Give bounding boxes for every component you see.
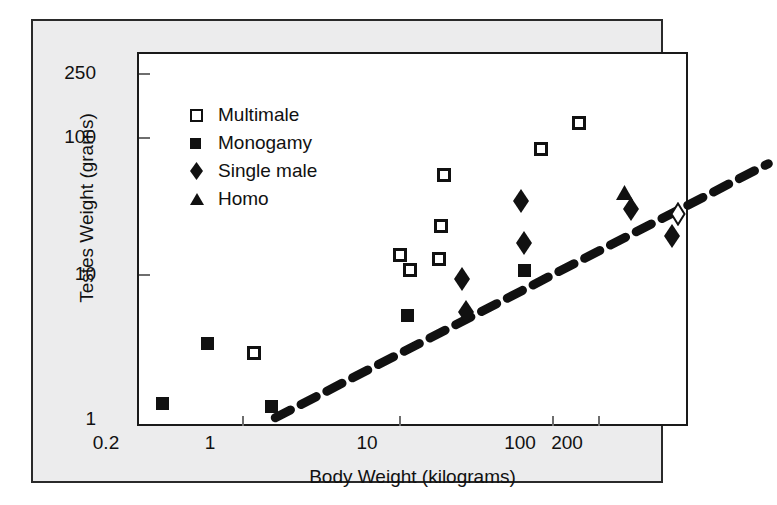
x-tick-label-10: 10 [327,433,407,452]
data-point-filled-square [156,397,169,410]
y-tick-label-10: 10 [26,264,96,283]
data-point-open-square [437,168,451,182]
open-square-icon [190,109,216,122]
y-axis-label: Testes Weight (grams) [70,58,104,358]
data-point-open-square [572,116,586,130]
data-point-filled-diamond [458,300,474,328]
x-tick-mark-100 [552,416,554,426]
x-tick-mark-1 [242,416,244,426]
data-point-open-square [403,263,417,277]
legend-item-monogamy: Monogamy [190,129,420,157]
legend-label: Homo [218,188,269,210]
y-tick-label-1: 1 [26,409,96,428]
data-point-open-square [247,346,261,360]
data-point-filled-square [201,337,214,350]
plot-area: Multimale Monogamy Single male Homo [137,52,688,426]
filled-diamond-icon [190,162,216,180]
legend-label: Multimale [218,104,299,126]
legend-item-single-male: Single male [190,157,420,185]
data-point-open-square [534,142,548,156]
data-point-filled-diamond [454,267,470,295]
data-point-filled-square [518,264,531,277]
y-tick-mark-100 [139,137,150,139]
data-point-filled-triangle [616,185,633,204]
data-point-open-square [393,248,407,262]
x-tick-mark-200 [598,416,600,426]
chart-panel: Testes Weight (grams) Body Weight (kilog… [31,19,663,483]
legend-label: Monogamy [218,132,312,154]
data-point-filled-square [401,309,414,322]
legend-item-homo: Homo [190,185,420,213]
legend-item-multimale: Multimale [190,101,420,129]
y-tick-mark-10 [139,274,150,276]
x-tick-label-0.2: 0.2 [66,433,146,452]
filled-triangle-icon [190,193,216,205]
x-tick-mark-10 [399,416,401,426]
chart-legend: Multimale Monogamy Single male Homo [190,101,420,213]
data-point-filled-square [265,400,278,413]
legend-label: Single male [218,160,317,182]
data-point-open-diamond [670,202,686,230]
data-point-open-square [432,252,446,266]
data-point-filled-diamond [516,231,532,259]
y-tick-label-250: 250 [26,63,96,82]
x-tick-label-200: 200 [527,433,607,452]
filled-square-icon [190,138,216,149]
data-point-open-square [434,219,448,233]
y-tick-label-100: 100 [26,127,96,146]
data-point-filled-diamond [513,189,529,217]
x-tick-label-1: 1 [170,433,250,452]
y-tick-mark-250 [139,73,150,75]
x-axis-label: Body Weight (kilograms) [137,464,688,490]
